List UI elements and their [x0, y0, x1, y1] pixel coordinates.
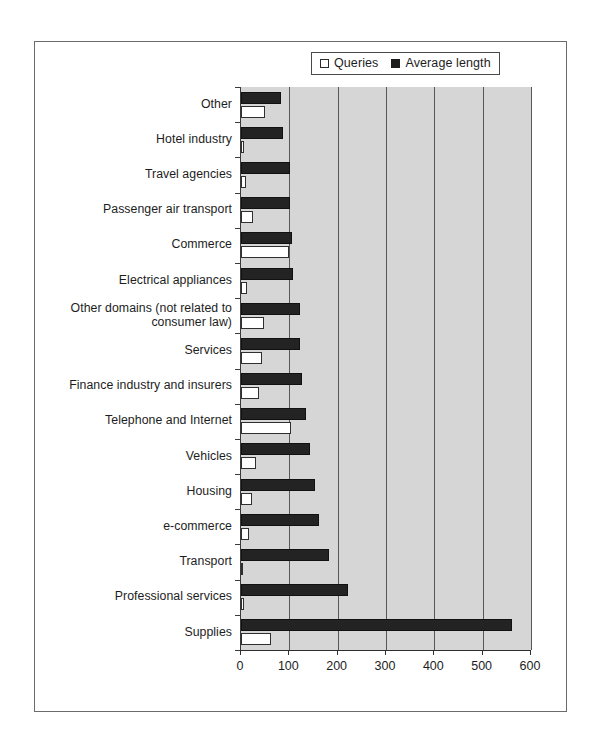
y-axis-tick	[235, 333, 240, 334]
bar-group	[241, 404, 531, 439]
chart-frame: Queries Average length OtherHotel indust…	[34, 41, 567, 712]
y-axis-tick	[235, 122, 240, 123]
plot-area	[240, 87, 531, 650]
bar-queries	[241, 422, 291, 434]
bar-queries	[241, 457, 256, 469]
bar-average-length	[241, 162, 290, 174]
bar-group	[241, 157, 531, 192]
legend-entry-average-length: Average length	[391, 56, 490, 70]
bar-average-length	[241, 514, 319, 526]
bar-average-length	[241, 303, 300, 315]
bar-average-length	[241, 408, 306, 420]
category-label: Vehicles	[32, 450, 232, 464]
bar-average-length	[241, 197, 290, 209]
x-axis-tick-label: 200	[317, 659, 357, 673]
bar-group	[241, 193, 531, 228]
y-axis-tick	[235, 509, 240, 510]
bar-group	[241, 369, 531, 404]
y-axis-tick	[235, 544, 240, 545]
y-axis-tick	[235, 263, 240, 264]
x-axis-tick-label: 0	[220, 659, 260, 673]
category-axis-labels: OtherHotel industryTravel agenciesPassen…	[35, 87, 238, 650]
bar-queries	[241, 282, 247, 294]
x-axis-tick-label: 600	[510, 659, 550, 673]
category-label: Services	[32, 344, 232, 358]
category-label: Telephone and Internet	[32, 414, 232, 428]
category-label: Hotel industry	[32, 133, 232, 147]
bar-group	[241, 544, 531, 579]
legend-label-queries: Queries	[334, 56, 378, 70]
x-axis-tick	[288, 650, 289, 655]
bar-group	[241, 580, 531, 615]
bar-queries	[241, 246, 289, 258]
bar-average-length	[241, 268, 293, 280]
bar-queries	[241, 176, 246, 188]
bar-group	[241, 439, 531, 474]
category-label: Finance industry and insurers	[32, 379, 232, 393]
x-axis-tick	[482, 650, 483, 655]
category-label: Transport	[32, 555, 232, 569]
bar-group	[241, 87, 531, 122]
y-axis-tick	[235, 228, 240, 229]
plot-wrapper: Queries Average length OtherHotel indust…	[35, 42, 568, 713]
bar-queries	[241, 598, 244, 610]
filled-square-icon	[391, 59, 400, 68]
category-label: Passenger air transport	[32, 203, 232, 217]
bar-group	[241, 333, 531, 368]
x-axis-tick	[433, 650, 434, 655]
bar-queries	[241, 563, 243, 575]
y-axis-tick	[235, 87, 240, 88]
category-label: Other domains (not related to consumer l…	[32, 302, 232, 330]
bar-queries	[241, 141, 244, 153]
y-axis-tick	[235, 404, 240, 405]
y-axis-tick	[235, 439, 240, 440]
legend-label-average-length: Average length	[405, 56, 490, 70]
bar-average-length	[241, 549, 329, 561]
y-axis-tick	[235, 298, 240, 299]
y-axis-tick	[235, 369, 240, 370]
x-axis-tick	[530, 650, 531, 655]
bar-average-length	[241, 127, 283, 139]
bar-average-length	[241, 584, 348, 596]
category-label: Supplies	[32, 626, 232, 640]
bar-queries	[241, 387, 259, 399]
x-axis-tick	[240, 650, 241, 655]
category-label: Electrical appliances	[32, 274, 232, 288]
category-label: Other	[32, 98, 232, 112]
bar-average-length	[241, 619, 512, 631]
bar-queries	[241, 528, 249, 540]
bar-queries	[241, 633, 271, 645]
x-axis-tick-label: 500	[462, 659, 502, 673]
y-axis-tick	[235, 157, 240, 158]
bar-queries	[241, 211, 253, 223]
bar-group	[241, 298, 531, 333]
bar-group	[241, 228, 531, 263]
category-label: Housing	[32, 485, 232, 499]
bar-queries	[241, 352, 262, 364]
category-label: Professional services	[32, 590, 232, 604]
bar-average-length	[241, 373, 302, 385]
bar-average-length	[241, 92, 281, 104]
category-label: e-commerce	[32, 520, 232, 534]
x-axis-tick-label: 400	[413, 659, 453, 673]
bar-group	[241, 509, 531, 544]
hollow-square-icon	[320, 59, 329, 68]
bar-average-length	[241, 443, 310, 455]
x-axis-tick	[337, 650, 338, 655]
bar-average-length	[241, 232, 292, 244]
bar-group	[241, 122, 531, 157]
y-axis-tick	[235, 474, 240, 475]
y-axis-tick	[235, 580, 240, 581]
x-axis-tick	[385, 650, 386, 655]
bar-average-length	[241, 338, 300, 350]
bar-queries	[241, 106, 265, 118]
y-axis-tick	[235, 193, 240, 194]
gridline	[531, 87, 532, 650]
bar-queries	[241, 317, 264, 329]
x-axis-tick-label: 100	[268, 659, 308, 673]
category-label: Travel agencies	[32, 168, 232, 182]
category-label: Commerce	[32, 238, 232, 252]
legend-entry-queries: Queries	[320, 56, 378, 70]
y-axis-tick	[235, 615, 240, 616]
bar-average-length	[241, 479, 315, 491]
